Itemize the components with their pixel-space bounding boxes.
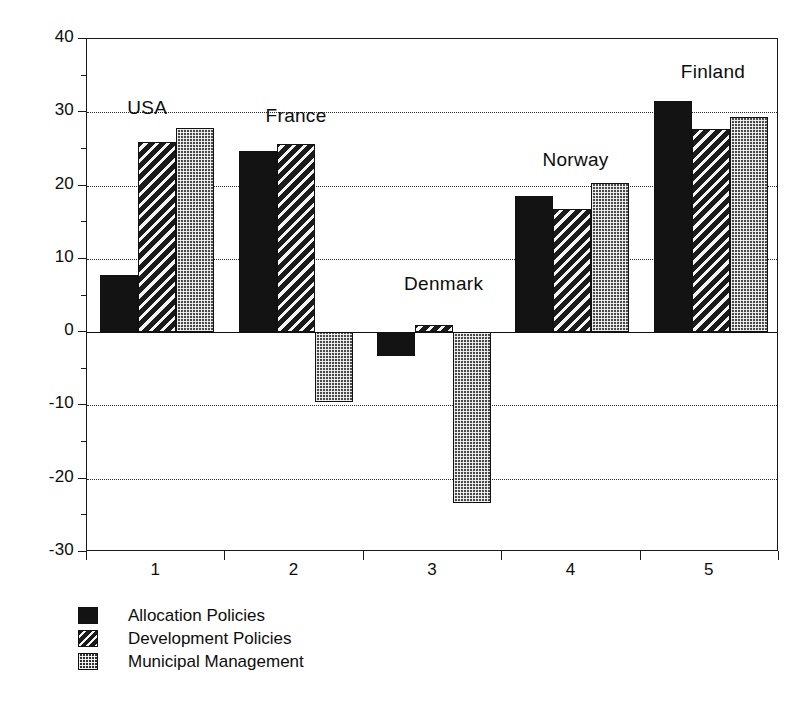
- y-axis-label-0: 0: [0, 320, 74, 340]
- bar-2-allocation-policies: [239, 151, 277, 332]
- x-tick-4: [640, 551, 641, 560]
- legend-item-municipal-management: Municipal Management: [78, 650, 304, 673]
- bar-3-municipal-management: [453, 332, 491, 503]
- country-label-denmark: Denmark: [404, 273, 483, 295]
- legend: Allocation PoliciesDevelopment PoliciesM…: [78, 604, 304, 673]
- bar-2-municipal-management: [315, 332, 353, 402]
- bar-2-development-policies: [277, 144, 315, 332]
- legend-label: Allocation Policies: [128, 606, 265, 626]
- bar-5-municipal-management: [730, 117, 768, 332]
- y-axis-label--10: -10: [0, 393, 74, 413]
- y-axis-label-10: 10: [0, 247, 74, 267]
- legend-swatch-dots: [78, 653, 98, 670]
- y-axis-label--30: -30: [0, 540, 74, 560]
- y-axis-label--20: -20: [0, 467, 74, 487]
- country-label-finland: Finland: [681, 61, 745, 83]
- x-axis-label-5: 5: [689, 560, 729, 580]
- country-label-norway: Norway: [542, 149, 608, 171]
- x-axis-label-3: 3: [412, 560, 452, 580]
- gridline--10: [87, 405, 777, 406]
- bar-1-municipal-management: [176, 128, 214, 332]
- bar-1-development-policies: [138, 142, 176, 332]
- gridline--20: [87, 479, 777, 480]
- bar-1-allocation-policies: [100, 275, 138, 332]
- bar-chart-figure: 403020100-10-20-30 12345 USAFranceDenmar…: [0, 0, 802, 710]
- y-axis-label-40: 40: [0, 27, 74, 47]
- bar-5-allocation-policies: [654, 101, 692, 332]
- bar-4-allocation-policies: [515, 196, 553, 332]
- bar-3-allocation-policies: [377, 332, 415, 356]
- bar-4-municipal-management: [591, 183, 629, 333]
- x-axis-label-4: 4: [550, 560, 590, 580]
- x-tick-5: [778, 551, 779, 560]
- x-axis-label-1: 1: [135, 560, 175, 580]
- legend-item-development-policies: Development Policies: [78, 627, 304, 650]
- bar-4-development-policies: [553, 209, 591, 332]
- legend-label: Development Policies: [128, 629, 291, 649]
- legend-item-allocation-policies: Allocation Policies: [78, 604, 304, 627]
- x-tick-2: [363, 551, 364, 560]
- x-tick-1: [224, 551, 225, 560]
- y-axis-label-30: 30: [0, 100, 74, 120]
- x-tick-0: [86, 551, 87, 560]
- legend-swatch-hatch: [78, 630, 98, 647]
- y-axis-label-20: 20: [0, 174, 74, 194]
- country-label-france: France: [266, 105, 327, 127]
- legend-label: Municipal Management: [128, 652, 304, 672]
- zero-baseline: [87, 332, 777, 333]
- x-axis-label-2: 2: [274, 560, 314, 580]
- bar-5-development-policies: [692, 129, 730, 332]
- bar-3-development-policies: [415, 325, 453, 332]
- legend-swatch-solid: [78, 607, 98, 624]
- x-tick-3: [501, 551, 502, 560]
- country-label-usa: USA: [127, 97, 167, 119]
